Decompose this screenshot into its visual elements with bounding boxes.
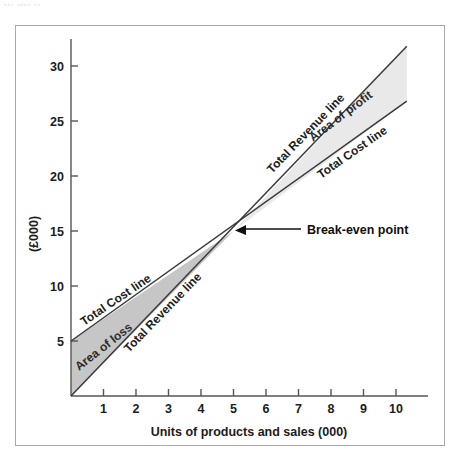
y-tick-label-30: 30 [50,60,64,74]
y-tick-label-10: 10 [50,280,64,294]
x-tick-label-4: 4 [198,402,205,416]
x-tick-label-1: 1 [100,402,107,416]
x-tick-labels: 1 2 3 4 5 6 7 8 9 10 [100,402,403,416]
break-even-arrow-head [235,225,246,235]
y-tick-label-5: 5 [57,335,64,349]
break-even-point-label: Break-even point [307,223,409,237]
scan-artifact-text: ▪▪▪ ▪▪▪▪ ▪▪ [4,1,60,8]
figure-root: ▪▪▪ ▪▪▪▪ ▪▪ [0,0,461,464]
y-tick-label-15: 15 [50,225,64,239]
y-tick-label-25: 25 [50,115,64,129]
y-tick-label-20: 20 [50,170,64,184]
figure-frame: 30 25 20 15 10 5 1 2 3 4 5 6 7 8 9 10 [15,25,445,446]
y-tick-labels: 30 25 20 15 10 5 [50,60,64,349]
x-tick-label-7: 7 [295,402,302,416]
x-axis-title: Units of products and sales (000) [151,425,348,439]
x-tick-label-9: 9 [360,402,367,416]
y-axis-title: (£000) [27,216,41,252]
break-even-chart: 30 25 20 15 10 5 1 2 3 4 5 6 7 8 9 10 [16,26,444,445]
y-axis-ticks [71,66,78,341]
x-tick-label-10: 10 [389,402,403,416]
x-tick-label-5: 5 [230,402,237,416]
x-axis-ticks [104,389,397,396]
x-tick-label-6: 6 [263,402,270,416]
x-tick-label-3: 3 [165,402,172,416]
x-tick-label-8: 8 [328,402,335,416]
x-tick-label-2: 2 [133,402,140,416]
total-cost-line [71,101,407,341]
break-even-annotation: Break-even point [235,223,409,237]
